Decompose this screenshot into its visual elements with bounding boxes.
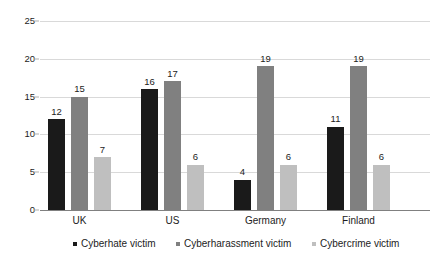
bar[interactable] [141, 89, 158, 210]
bar[interactable] [327, 127, 344, 210]
x-axis-category-label: US [141, 216, 204, 226]
bar-value-label: 19 [350, 54, 367, 64]
bar-value-label: 17 [164, 69, 181, 79]
bar[interactable] [164, 81, 181, 210]
y-axis-tick-mark [34, 172, 39, 173]
legend-item[interactable]: Cyberharassment victim [176, 239, 291, 249]
plot-area: 1215716176419611196 [40, 21, 430, 210]
legend-swatch-icon [312, 242, 316, 246]
x-axis-category-label: UK [48, 216, 111, 226]
x-axis-category-label: Finland [327, 216, 390, 226]
legend-label: Cyberharassment victim [184, 239, 291, 249]
bar-group: 11196 [327, 21, 390, 210]
bar[interactable] [94, 157, 111, 210]
bar-value-label: 7 [94, 145, 111, 155]
bar-value-label: 4 [234, 167, 251, 177]
bar-group: 12157 [48, 21, 111, 210]
bar-value-label: 16 [141, 77, 158, 87]
bar[interactable] [71, 97, 88, 210]
y-axis-tick-label: 5 [5, 167, 35, 177]
legend-label: Cyberhate victim [81, 239, 155, 249]
y-axis-tick-label: 25 [5, 16, 35, 26]
bar-chart: 0510152025 1215716176419611196 UKUSGerma… [0, 0, 441, 266]
legend-swatch-icon [73, 242, 77, 246]
y-axis-tick-label: 15 [5, 92, 35, 102]
bar-value-label: 6 [280, 152, 297, 162]
y-axis-tick-mark [34, 210, 39, 211]
bar[interactable] [373, 165, 390, 210]
chart-legend: Cyberhate victimCyberharassment victimCy… [0, 239, 441, 255]
bar-value-label: 11 [327, 114, 344, 124]
legend-item[interactable]: Cybercrime victim [312, 239, 399, 249]
bar[interactable] [257, 66, 274, 210]
y-axis-tick-mark [34, 134, 39, 135]
y-axis-tick-mark [34, 96, 39, 97]
bar-group: 16176 [141, 21, 204, 210]
legend-swatch-icon [176, 242, 180, 246]
legend-item[interactable]: Cyberhate victim [73, 239, 155, 249]
bar[interactable] [48, 119, 65, 210]
bar[interactable] [350, 66, 367, 210]
bar[interactable] [280, 165, 297, 210]
bar[interactable] [187, 165, 204, 210]
y-axis-tick-mark [34, 58, 39, 59]
axis-baseline [40, 210, 430, 211]
x-axis-category-label: Germany [234, 216, 297, 226]
bar-group: 4196 [234, 21, 297, 210]
y-axis-tick-mark [34, 21, 39, 22]
y-axis-tick-label: 0 [5, 205, 35, 215]
bar-value-label: 15 [71, 84, 88, 94]
bar-value-label: 12 [48, 107, 65, 117]
legend-label: Cybercrime victim [320, 239, 399, 249]
y-axis-tick-label: 10 [5, 130, 35, 140]
bar-value-label: 6 [187, 152, 204, 162]
y-axis-tick-label: 20 [5, 54, 35, 64]
bar-value-label: 6 [373, 152, 390, 162]
bar-value-label: 19 [257, 54, 274, 64]
bar[interactable] [234, 180, 251, 210]
